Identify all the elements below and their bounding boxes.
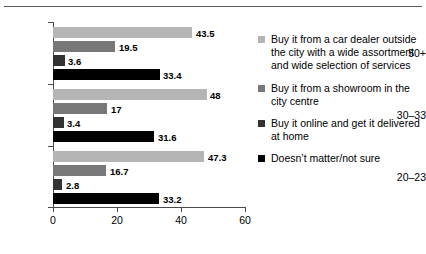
bar-g2-s1 <box>53 165 106 176</box>
bar-chart-figure: 50+ 30–33 20–23 43.5 19.5 3.6 33.4 48 17… <box>0 0 426 254</box>
bar-g0-s0 <box>53 27 192 38</box>
y-axis-tick <box>48 84 53 85</box>
legend-item-0[interactable]: Buy it from a car dealer outside the cit… <box>258 33 426 73</box>
x-axis-tick-0 <box>53 207 54 212</box>
legend-item-3[interactable]: Doesn’t matter/not sure <box>258 152 426 165</box>
bar-value-label-g2-s0: 47.3 <box>208 153 227 163</box>
bar-g1-s3 <box>53 131 154 142</box>
x-axis-tick-label-2: 40 <box>161 214 201 226</box>
x-axis-tick-1 <box>117 207 118 212</box>
bar-g0-s1 <box>53 41 115 52</box>
legend-label-2: Buy it online and get it delivered at ho… <box>271 117 426 143</box>
bar-value-label-g1-s0: 48 <box>210 91 221 101</box>
bar-value-label-g1-s3: 31.6 <box>158 133 177 143</box>
x-axis-tick-label-0: 0 <box>33 214 73 226</box>
x-axis-tick-2 <box>181 207 182 212</box>
legend-swatch-icon-3 <box>258 155 265 162</box>
bar-g1-s1 <box>53 103 107 114</box>
legend-label-1: Buy it from a showroom in the city centr… <box>271 82 426 108</box>
bar-g1-s2 <box>53 117 64 128</box>
legend-swatch-icon-2 <box>258 120 265 127</box>
x-axis-tick-label-1: 20 <box>97 214 137 226</box>
bar-g0-s2 <box>53 55 65 66</box>
x-axis-tick-label-3: 60 <box>225 214 265 226</box>
bar-g0-s3 <box>53 69 160 80</box>
bar-g1-s0 <box>53 89 207 100</box>
bar-g2-s0 <box>53 151 204 162</box>
legend-label-3: Doesn’t matter/not sure <box>271 152 380 165</box>
chart-legend: Buy it from a car dealer outside the cit… <box>258 33 426 175</box>
bar-value-label-g1-s1: 17 <box>111 105 122 115</box>
bar-value-label-g1-s2: 3.4 <box>67 119 80 129</box>
bar-value-label-g0-s2: 3.6 <box>68 57 81 67</box>
bar-value-label-g0-s1: 19.5 <box>119 43 138 53</box>
bar-value-label-g2-s3: 33.2 <box>163 195 182 205</box>
bar-value-label-g2-s2: 2.8 <box>66 181 79 191</box>
bar-value-label-g0-s3: 33.4 <box>163 71 182 81</box>
y-axis-tick <box>48 22 53 23</box>
bar-value-label-g2-s1: 16.7 <box>110 167 129 177</box>
bar-g2-s3 <box>53 193 159 204</box>
legend-swatch-icon-1 <box>258 85 265 92</box>
x-axis-tick-3 <box>245 207 246 212</box>
x-axis-line <box>53 207 245 208</box>
legend-label-0: Buy it from a car dealer outside the cit… <box>271 33 426 73</box>
bar-value-label-g0-s0: 43.5 <box>196 29 215 39</box>
legend-swatch-icon-0 <box>258 36 265 43</box>
y-axis-tick <box>48 146 53 147</box>
bar-g2-s2 <box>53 179 62 190</box>
legend-item-2[interactable]: Buy it online and get it delivered at ho… <box>258 117 426 143</box>
legend-item-1[interactable]: Buy it from a showroom in the city centr… <box>258 82 426 108</box>
